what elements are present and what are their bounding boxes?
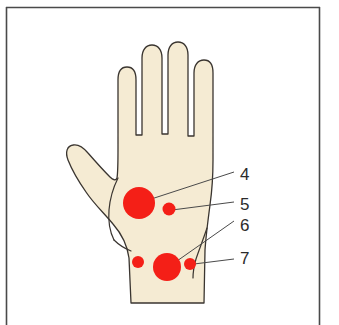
marker-point-6[interactable] xyxy=(153,253,181,281)
hand-acupoint-figure: 4 5 6 7 xyxy=(0,0,339,325)
callout-label-7: 7 xyxy=(240,249,249,268)
marker-point-4[interactable] xyxy=(123,187,155,219)
marker-point-7[interactable] xyxy=(184,258,196,270)
callout-label-6: 6 xyxy=(240,216,249,235)
hand-diagram-svg: 4 5 6 7 xyxy=(0,0,339,325)
callout-labels-group: 4 5 6 7 xyxy=(240,165,249,268)
marker-point-5[interactable] xyxy=(163,203,176,216)
marker-point-unlabeled-left[interactable] xyxy=(132,256,144,268)
callout-label-4: 4 xyxy=(240,165,249,184)
callout-label-5: 5 xyxy=(240,195,249,214)
